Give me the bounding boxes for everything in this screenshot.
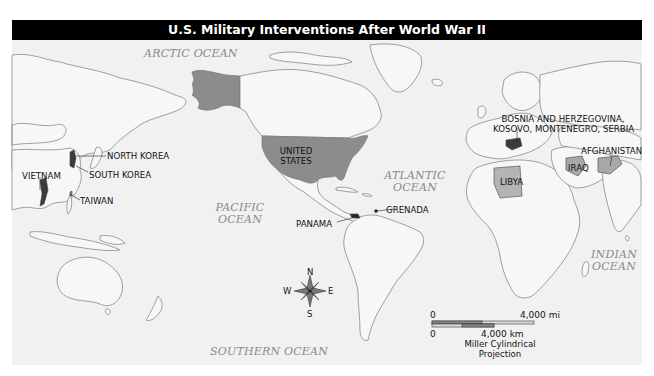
ocean-label-indian: INDIAN OCEAN	[586, 249, 642, 273]
projection-label: Miller Cylindrical Projection	[450, 339, 550, 359]
label-balkans-line1: BOSNIA AND HERZEGOVINA,	[493, 114, 633, 124]
label-south-korea: SOUTH KOREA	[89, 170, 151, 180]
label-balkans: BOSNIA AND HERZEGOVINA, KOSOVO, MONTENEG…	[493, 114, 633, 134]
land-new-guinea	[100, 235, 125, 244]
ocean-label-arctic: ARCTIC OCEAN	[144, 48, 238, 60]
land-greenland	[370, 44, 422, 92]
ocean-label-pacific-line2: OCEAN	[210, 214, 270, 226]
ocean-label-indian-line2: OCEAN	[586, 261, 642, 273]
label-balkans-line2: KOSOVO, MONTENEGRO, SERBIA	[493, 124, 633, 134]
scale-km-start: 0	[430, 329, 436, 339]
projection-line1: Miller Cylindrical	[450, 339, 550, 349]
land-arctic-islands	[270, 52, 352, 65]
land-iceland	[432, 79, 442, 86]
land-uk	[478, 106, 486, 118]
land-hispaniola	[362, 194, 372, 197]
land-tasmania	[105, 309, 110, 315]
ocean-label-southern: SOUTHERN OCEAN	[210, 346, 328, 358]
label-taiwan: TAIWAN	[80, 196, 113, 206]
compass-north: N	[307, 267, 313, 277]
compass-south: S	[307, 309, 312, 319]
label-iraq: IRAQ	[568, 163, 589, 173]
scale-mi-start: 0	[430, 310, 436, 320]
land-south-america	[344, 215, 424, 341]
label-united-states: UNITED STATES	[275, 146, 317, 166]
land-sri-lanka	[625, 236, 629, 241]
ocean-label-atlantic: ATLANTIC OCEAN	[380, 170, 450, 194]
label-afghanistan: AFGHANISTAN	[581, 146, 642, 156]
compass-rose	[294, 275, 326, 307]
land-australia	[57, 257, 122, 306]
country-panama	[350, 214, 360, 218]
land-alaska	[192, 70, 240, 110]
compass-east: E	[328, 286, 333, 296]
label-united-states-line1: UNITED	[275, 146, 317, 156]
ocean-label-atlantic-line2: OCEAN	[380, 182, 450, 194]
compass-west: W	[283, 286, 291, 296]
land-canada	[240, 69, 381, 138]
land-cuba	[336, 187, 358, 192]
land-new-zealand	[146, 296, 162, 321]
projection-line2: Projection	[450, 349, 550, 359]
scale-km-end: 4,000 km	[481, 329, 524, 339]
label-vietnam: VIETNAM	[22, 171, 61, 181]
label-north-korea: NORTH KOREA	[107, 151, 169, 161]
scale-mi-end: 4,000 mi	[520, 310, 560, 320]
label-panama: PANAMA	[296, 219, 332, 229]
label-grenada: GRENADA	[386, 205, 429, 215]
map-title: U.S. Military Interventions After World …	[12, 20, 642, 40]
label-libya: LIBYA	[500, 177, 523, 187]
scale-bar	[432, 321, 534, 327]
ocean-label-pacific: PACIFIC OCEAN	[210, 202, 270, 226]
land-scandinavia	[502, 72, 542, 111]
label-united-states-line2: STATES	[275, 156, 317, 166]
